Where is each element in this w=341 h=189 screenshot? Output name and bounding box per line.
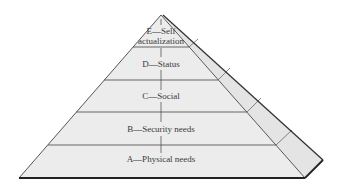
level-a-label: A—Physical needs [127, 154, 196, 164]
level-b-label: B—Security needs [127, 124, 195, 134]
level-c-label: C—Social [142, 91, 180, 101]
level-d-label: D—Status [142, 59, 180, 69]
level-e-label-line1: E—Self [147, 26, 176, 36]
level-e-label-line2: actualization [138, 36, 184, 46]
